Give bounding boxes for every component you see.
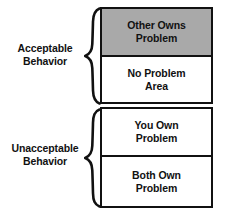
box-both-own-problem[interactable]: Both Own Problem (100, 157, 213, 208)
group-label-acceptable-line-1: Acceptable (6, 42, 84, 55)
group-label-acceptable-line-2: Behavior (6, 55, 84, 68)
box-stack-acceptable: Other Owns Problem No Problem Area (100, 7, 213, 104)
box-other-owns-problem-text: Other Owns Problem (127, 19, 186, 45)
group-label-unacceptable-line-1: Unacceptable (2, 142, 88, 155)
box-you-own-problem[interactable]: You Own Problem (100, 107, 213, 157)
box-you-own-problem-line-1: You Own (134, 119, 178, 132)
group-label-unacceptable-behavior: Unacceptable Behavior (2, 142, 88, 168)
box-no-problem-area-text: No Problem Area (128, 67, 186, 93)
box-you-own-problem-text: You Own Problem (134, 119, 178, 145)
box-both-own-problem-line-2: Problem (132, 182, 181, 195)
box-other-owns-problem[interactable]: Other Owns Problem (100, 7, 213, 57)
box-no-problem-area[interactable]: No Problem Area (100, 57, 213, 104)
box-other-owns-problem-line-2: Problem (127, 32, 186, 45)
box-stack-unacceptable: You Own Problem Both Own Problem (100, 107, 213, 208)
diagram-canvas: Acceptable Behavior Other Owns Problem N… (0, 0, 231, 217)
group-label-unacceptable-line-2: Behavior (2, 155, 88, 168)
box-no-problem-area-line-1: No Problem (128, 67, 186, 80)
box-no-problem-area-line-2: Area (128, 80, 186, 93)
box-you-own-problem-line-2: Problem (134, 132, 178, 145)
box-both-own-problem-text: Both Own Problem (132, 169, 181, 195)
group-label-acceptable-behavior: Acceptable Behavior (6, 42, 84, 68)
box-both-own-problem-line-1: Both Own (132, 169, 181, 182)
box-other-owns-problem-line-1: Other Owns (127, 19, 186, 32)
